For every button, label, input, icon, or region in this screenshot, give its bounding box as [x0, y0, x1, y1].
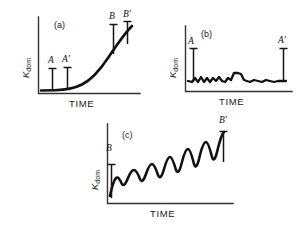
panel-c-y-symbol: K — [89, 184, 100, 190]
panel-b-y-axis-label: Kdom — [167, 58, 178, 78]
panel-a-errorbar-A-prime — [64, 67, 72, 90]
panel-b-errorbar-A — [190, 48, 198, 82]
panel-a-x-axis-label: TIME — [69, 98, 94, 109]
panel-a: (a) A A' B B' Kdom TIME — [0, 0, 152, 118]
panel-c: (c) B B' Kdom TIME — [58, 112, 248, 235]
panel-a-y-symbol: K — [20, 72, 31, 78]
panel-b-marker-a-prime: A' — [278, 35, 286, 45]
panel-c-curve — [110, 132, 224, 196]
panel-b-tag: (b) — [201, 29, 212, 39]
panel-a-marker-a-prime: A' — [62, 54, 70, 64]
panel-c-y-subscript: dom — [94, 170, 101, 184]
panel-b-x-axis-label: TIME — [219, 96, 244, 107]
panel-b-y-subscript: dom — [172, 58, 179, 72]
panel-a-marker-a: A — [48, 55, 54, 65]
figure-root: (a) A A' B B' Kdom TIME (b) A — [0, 0, 308, 235]
panel-b-curve — [188, 73, 286, 82]
panel-a-tag: (a) — [54, 20, 65, 30]
panel-b-marker-a: A — [188, 36, 194, 46]
panel-a-errorbar-B — [110, 24, 118, 54]
panel-a-marker-b: B — [109, 11, 115, 21]
panel-a-marker-b-prime: B' — [123, 9, 131, 19]
panel-c-marker-b: B — [106, 143, 112, 153]
panel-c-x-axis-label: TIME — [150, 208, 175, 219]
panel-a-errorbar-A — [49, 68, 57, 91]
panel-b-y-symbol: K — [167, 72, 178, 78]
panel-c-tag: (c) — [122, 130, 133, 140]
panel-a-y-axis-label: Kdom — [20, 58, 31, 78]
panel-c-marker-b-prime: B' — [219, 115, 227, 125]
panel-a-curve — [41, 26, 132, 91]
panel-b: (b) A A' Kdom TIME — [152, 8, 308, 120]
panel-b-errorbar-A-prime — [280, 48, 288, 82]
panel-a-y-subscript: dom — [25, 58, 32, 72]
panel-c-y-axis-label: Kdom — [89, 170, 100, 190]
